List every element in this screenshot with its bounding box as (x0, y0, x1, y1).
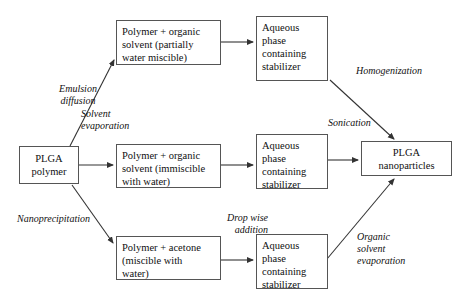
label-sonication: Sonication (328, 117, 398, 129)
node-aqueous-phase-bottom: Aqueous phase containing stabilizer (256, 234, 328, 289)
node-plga-nanoparticles: PLGA nanoparticles (361, 141, 452, 176)
node-plga-polymer: PLGA polymer (19, 146, 79, 184)
label-homogenization: Homogenization (356, 65, 456, 77)
arrow-aqueous-top-to-nanoparticles (330, 80, 394, 139)
flow-diagram: PLGA polymer Polymer + organic solvent (… (0, 0, 464, 303)
node-polymer-acetone: Polymer + acetone (miscible with water) (116, 236, 221, 280)
label-emulsion-diffusion: Emulsion diffusion (47, 83, 109, 107)
node-aqueous-phase-middle: Aqueous phase containing stabilizer (256, 134, 328, 189)
label-solvent-evaporation: Solvent evaporation (81, 108, 143, 132)
node-aqueous-phase-top: Aqueous phase containing stabilizer (256, 16, 328, 81)
node-polymer-immiscible: Polymer + organic solvent (immiscible wi… (116, 144, 221, 188)
node-polymer-partially-miscible: Polymer + organic solvent (partially wat… (116, 20, 221, 65)
label-nanoprecipitation: Nanoprecipitation (17, 213, 112, 225)
label-drop-wise-addition: Drop wise addition (214, 212, 268, 236)
label-organic-solvent-evaporation: Organic solvent evaporation (357, 231, 437, 267)
